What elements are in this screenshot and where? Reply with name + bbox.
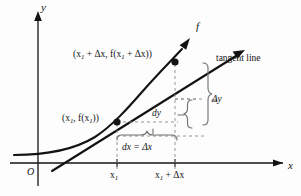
point-upper-label: (x1 + Δx, f(x1 + Δx)) — [73, 50, 152, 60]
point-upper-dot — [171, 58, 178, 65]
f-of-x: f(x — [110, 49, 121, 59]
dx-brace — [117, 129, 177, 140]
paren-close: )) — [146, 49, 152, 59]
x-axis — [10, 159, 283, 166]
plus-sign: + — [84, 49, 94, 59]
tick-x-subscript: 1 — [115, 174, 118, 181]
dy-label: dy — [152, 109, 161, 119]
tick-x-rest: + Δx — [163, 170, 184, 180]
plus-sign-2: + — [125, 49, 135, 59]
tangent-line-label: tangent line — [216, 54, 261, 64]
differentials-diagram: y x O f tangent line (x1 + Δx, f(x1 + Δx… — [0, 0, 301, 196]
tangent-line — [52, 50, 245, 171]
point-markers — [113, 58, 178, 125]
origin-label: O — [27, 167, 34, 177]
point-lower-label: (x1, f(x1)) — [62, 114, 99, 124]
delta-y-label: Δy — [212, 95, 222, 105]
dashed-guides — [117, 64, 205, 170]
f-of-x: f(x — [78, 113, 89, 123]
delta-x-symbol: Δx — [94, 49, 105, 59]
curve-label-f: f — [196, 21, 199, 32]
point-lower-dot — [113, 118, 120, 125]
tick-label-x1: x1 — [110, 171, 118, 181]
tick-label-x1-plus-delta-x: x1 + Δx — [155, 171, 184, 181]
dx-equals-delta-x-label: dx = Δx — [122, 143, 152, 153]
y-axis — [34, 11, 42, 186]
axis-label-x: x — [288, 160, 293, 171]
dy-brace — [178, 100, 192, 128]
delta-x-symbol-2: Δx — [135, 49, 146, 59]
diagram-canvas — [0, 0, 301, 196]
axis-label-y: y — [41, 2, 46, 13]
paren-close: )) — [93, 113, 99, 123]
